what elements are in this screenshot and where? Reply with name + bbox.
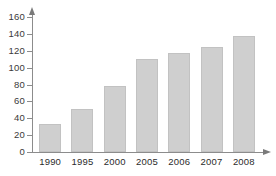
bar-2006: [168, 53, 190, 152]
bar-2007: [201, 47, 223, 152]
y-axis-tick: [27, 51, 32, 52]
y-axis-tick-label: 40: [0, 113, 25, 123]
y-axis-tick: [27, 118, 32, 119]
x-axis-label-1990: 1990: [34, 157, 66, 167]
y-axis-tick-label: 160: [0, 12, 25, 22]
x-axis-line: [32, 152, 264, 153]
bar-1990: [39, 124, 61, 152]
bar-1995: [71, 109, 93, 152]
y-axis-tick-label: 100: [0, 63, 25, 73]
y-axis-tick-label: 120: [0, 46, 25, 56]
x-axis-label-2000: 2000: [99, 157, 131, 167]
y-axis-line: [32, 14, 33, 153]
bar-2005: [136, 59, 158, 152]
bar-chart: 020406080100120140160 199019952000200520…: [0, 0, 276, 176]
y-axis-tick: [27, 135, 32, 136]
bar-2008: [233, 36, 255, 152]
y-axis-tick-label: 0: [0, 147, 25, 157]
x-axis-label-2006: 2006: [163, 157, 195, 167]
y-axis-tick-label: 140: [0, 29, 25, 39]
x-axis-arrow-icon: [263, 149, 271, 155]
bar-2000: [104, 86, 126, 152]
y-axis-tick-label: 60: [0, 96, 25, 106]
y-axis-tick: [27, 152, 32, 153]
y-axis-tick: [27, 68, 32, 69]
y-axis-tick: [27, 85, 32, 86]
y-axis-arrow-icon: [29, 7, 35, 15]
y-axis-tick: [27, 101, 32, 102]
x-axis-label-2007: 2007: [196, 157, 228, 167]
y-axis-tick-label: 80: [0, 80, 25, 90]
x-axis-label-2008: 2008: [228, 157, 260, 167]
x-axis-label-1995: 1995: [66, 157, 98, 167]
x-axis-label-2005: 2005: [131, 157, 163, 167]
y-axis-tick: [27, 34, 32, 35]
y-axis-tick: [27, 17, 32, 18]
y-axis-tick-label: 20: [0, 130, 25, 140]
